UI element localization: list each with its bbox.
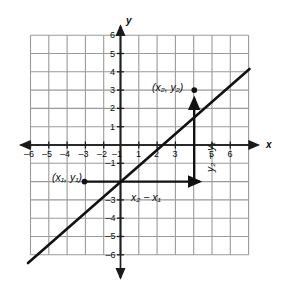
x-tick-neg4: –4 — [60, 150, 70, 159]
x-tick-6: 6 — [228, 150, 233, 159]
y-tick-neg1: –1 — [106, 159, 116, 168]
rise-label: y₂ − y₁ — [205, 142, 216, 172]
coordinate-plane-figure: –6 –5 –4 –3 –2 –1 1 2 3 5 6 6 5 4 3 2 1 … — [0, 0, 281, 287]
x-tick-1: 1 — [136, 150, 141, 159]
graph-canvas — [0, 0, 281, 287]
y-tick-neg5: –5 — [106, 232, 116, 241]
y-tick-2: 2 — [110, 104, 115, 113]
x-tick-neg5: –5 — [42, 150, 52, 159]
y-tick-neg4: –4 — [106, 214, 116, 223]
y-tick-4: 4 — [110, 68, 115, 77]
x-tick-3: 3 — [173, 150, 178, 159]
x-tick-neg3: –3 — [79, 150, 89, 159]
y-tick-neg3: –3 — [106, 196, 116, 205]
point2-label: (x₂, y₂) — [152, 82, 183, 93]
y-tick-neg6: –6 — [106, 251, 116, 260]
x-axis-label: x — [266, 140, 272, 150]
point1-label: (x₁, y₁) — [52, 172, 82, 183]
run-label: x₂ − x₁ — [131, 192, 161, 203]
x-tick-2: 2 — [154, 150, 159, 159]
y-tick-6: 6 — [110, 31, 115, 40]
y-tick-1: 1 — [110, 123, 115, 132]
x-tick-neg6: –6 — [24, 150, 34, 159]
y-axis-label: y — [126, 16, 132, 26]
data-points — [82, 87, 198, 184]
y-tick-5: 5 — [110, 50, 115, 59]
y-tick-3: 3 — [110, 86, 115, 95]
